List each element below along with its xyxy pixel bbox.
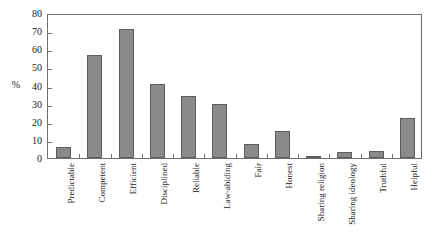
y-axis-tick-label: 20 — [20, 118, 42, 128]
x-axis-category-label: Honest — [285, 163, 294, 189]
bar — [150, 84, 165, 158]
x-axis-category-label: Disciplined — [160, 163, 169, 205]
bar — [244, 144, 259, 159]
y-axis-tick-label: 40 — [20, 82, 42, 92]
bar — [337, 152, 352, 158]
bar-chart: % 01020304050607080 PredictableCompetent… — [0, 0, 431, 246]
x-axis-category-label: Sharing ideology — [348, 163, 357, 225]
x-axis-category-label: Fair — [254, 163, 263, 178]
bar — [181, 96, 196, 158]
bar — [369, 151, 384, 158]
bar — [87, 55, 102, 158]
bar — [212, 104, 227, 158]
y-axis-tick-label: 30 — [20, 100, 42, 110]
bar — [400, 118, 415, 158]
bar — [306, 156, 321, 158]
y-axis-tick-label: 0 — [20, 154, 42, 164]
y-axis-tick-label: 80 — [20, 9, 42, 19]
x-axis-category-label: Sharing religion — [317, 163, 326, 221]
x-axis-category-label: Efficient — [129, 163, 138, 194]
x-axis-category-label: Reliable — [192, 163, 201, 193]
x-axis-category-label: Competent — [98, 163, 107, 203]
x-axis-category-label: Helpful — [410, 163, 419, 191]
y-axis-tick-label: 60 — [20, 45, 42, 55]
bars-layer — [48, 15, 421, 158]
bar — [275, 131, 290, 158]
y-axis-tick-label: 50 — [20, 63, 42, 73]
x-axis-category-label: Law-abiding — [223, 163, 232, 209]
bar — [56, 147, 71, 158]
x-axis-category-label: Truthful — [379, 163, 388, 193]
y-axis-title: % — [4, 80, 20, 90]
x-axis-category-label: Predictable — [67, 163, 76, 203]
bar — [119, 29, 134, 158]
y-axis-tick-label: 10 — [20, 136, 42, 146]
plot-area — [47, 14, 422, 159]
y-axis-tick-label: 70 — [20, 27, 42, 37]
